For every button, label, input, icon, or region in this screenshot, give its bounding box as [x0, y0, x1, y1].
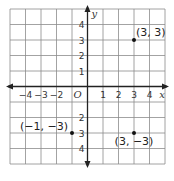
y-tick-label: 2	[79, 51, 85, 61]
coordinate-plane: −4−3−212344321234xyO (3, 3)(−1, −3)(3, −…	[0, 0, 174, 181]
y-tick-label: 4	[79, 20, 85, 30]
x-tick-label: 1	[100, 90, 106, 100]
x-axis-left-arrow-icon	[6, 84, 13, 90]
y-axis-up-arrow-icon	[85, 5, 91, 12]
y-tick-label: 3	[79, 129, 85, 139]
x-tick-label: 2	[116, 90, 122, 100]
y-tick-label: 4	[79, 144, 85, 154]
data-point-label: (−1, −3)	[20, 120, 68, 133]
y-tick-label: 2	[79, 113, 85, 123]
origin-label: O	[73, 89, 81, 100]
x-tick-label: −2	[50, 90, 63, 100]
y-tick-label: 3	[79, 36, 85, 46]
y-tick-label: 1	[79, 67, 85, 77]
x-tick-label: −3	[34, 90, 47, 100]
data-point-label: (3, −3)	[115, 135, 154, 148]
x-tick-label: 4	[147, 90, 153, 100]
x-tick-label: −4	[19, 90, 33, 100]
y-axis-label: y	[91, 8, 98, 19]
x-axis-label: x	[159, 89, 165, 100]
data-point-marker	[70, 131, 74, 135]
y-axis-down-arrow-icon	[85, 161, 91, 168]
x-tick-label: 3	[131, 90, 137, 100]
data-point-label: (3, 3)	[136, 26, 166, 39]
